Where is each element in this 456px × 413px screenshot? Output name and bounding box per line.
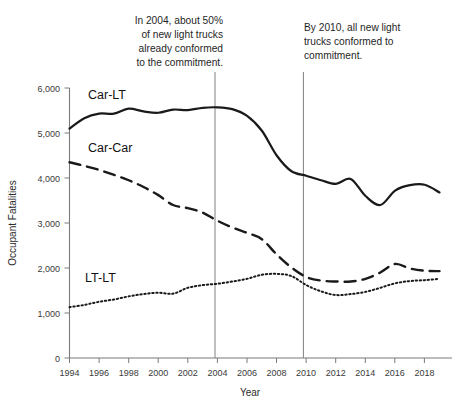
annotation-2004-text: In 2004, about 50% of new light trucks a… xyxy=(135,15,224,68)
series-label-car-car: Car-Car xyxy=(88,141,132,155)
chart-container: In 2004, about 50% of new light trucks a… xyxy=(0,0,456,413)
y-axis-tick-labels: 6,000 5,000 4,000 3,000 2,000 1,000 0 xyxy=(37,84,60,364)
y-tick-label-6000: 6,000 xyxy=(37,84,60,94)
x-axis-title: Year xyxy=(240,387,261,398)
x-tick-label-2008: 2008 xyxy=(266,368,286,378)
y-tick-label-2000: 2,000 xyxy=(37,264,60,274)
x-tick-label-2006: 2006 xyxy=(237,368,257,378)
x-tick-label-2000: 2000 xyxy=(148,368,168,378)
occupant-fatalities-line-chart: In 2004, about 50% of new light trucks a… xyxy=(0,0,456,413)
x-tick-label-1994: 1994 xyxy=(59,368,79,378)
annotation-2004-line-3: already conformed xyxy=(139,43,224,54)
annotation-2004-line-2: of new light trucks xyxy=(141,29,223,40)
series-line-car-lt xyxy=(70,107,440,205)
x-tick-label-1998: 1998 xyxy=(119,368,139,378)
x-axis-tick-labels: 1994 1996 1998 2000 2002 2004 2006 2008 … xyxy=(59,368,434,378)
series-label-lt-lt: LT-LT xyxy=(85,271,116,285)
y-axis-title: Occupant Fatalities xyxy=(7,180,18,266)
x-axis-ticks xyxy=(70,358,425,363)
x-tick-label-1996: 1996 xyxy=(89,368,109,378)
y-tick-label-4000: 4,000 xyxy=(37,174,60,184)
annotation-2010-text: By 2010, all new light trucks conformed … xyxy=(304,22,400,61)
x-tick-label-2004: 2004 xyxy=(207,368,227,378)
y-tick-label-0: 0 xyxy=(55,354,60,364)
annotation-2010-line-3: commitment. xyxy=(304,50,362,61)
series-label-car-lt: Car-LT xyxy=(88,88,126,102)
annotation-2004-line-4: to the commitment. xyxy=(136,57,223,68)
annotation-2010-line-1: By 2010, all new light xyxy=(304,22,400,33)
x-tick-label-2010: 2010 xyxy=(296,368,316,378)
y-tick-label-5000: 5,000 xyxy=(37,129,60,139)
x-tick-label-2018: 2018 xyxy=(414,368,434,378)
annotation-2010-line-2: trucks conformed to xyxy=(304,36,394,47)
y-tick-label-3000: 3,000 xyxy=(37,219,60,229)
annotation-2004-line-1: In 2004, about 50% xyxy=(135,15,223,26)
series-line-lt-lt xyxy=(70,274,440,307)
series-line-car-car xyxy=(70,162,440,281)
y-tick-label-1000: 1,000 xyxy=(37,309,60,319)
x-tick-label-2014: 2014 xyxy=(355,368,375,378)
x-tick-label-2002: 2002 xyxy=(178,368,198,378)
x-tick-label-2012: 2012 xyxy=(326,368,346,378)
x-tick-label-2016: 2016 xyxy=(385,368,405,378)
